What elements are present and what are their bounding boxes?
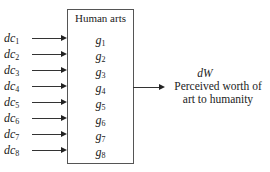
- box-item-g7: g7: [68, 130, 133, 146]
- box-item-g8: g8: [68, 146, 133, 162]
- input-arrow-line: [32, 118, 63, 119]
- input-label: dc4: [4, 80, 19, 96]
- box-item-g6: g6: [68, 114, 133, 130]
- box-item-g5: g5: [68, 98, 133, 114]
- output-label: dW Perceived worth of art to humanity: [140, 67, 270, 106]
- input-label: dc1: [4, 32, 19, 48]
- input-label: dc8: [4, 144, 19, 160]
- output-description-line1: Perceived worth of: [140, 80, 270, 93]
- input-label: dc5: [4, 96, 19, 112]
- box-item-g1: g1: [68, 34, 133, 50]
- output-description-line2: art to humanity: [140, 93, 270, 106]
- input-arrow-line: [32, 102, 63, 103]
- input-arrow-line: [32, 134, 63, 135]
- input-arrow-line: [32, 70, 63, 71]
- human-arts-box: Human arts g1 g2 g3 g4 g5 g6 g7 g8: [67, 9, 134, 164]
- input-label: dc6: [4, 112, 19, 128]
- output-variable: dW: [140, 67, 270, 80]
- input-arrow-line: [32, 54, 63, 55]
- input-label: dc2: [4, 48, 19, 64]
- input-arrow-line: [32, 86, 63, 87]
- box-item-g4: g4: [68, 82, 133, 98]
- box-item-g3: g3: [68, 66, 133, 82]
- input-arrow-line: [32, 38, 63, 39]
- box-title: Human arts: [68, 12, 133, 24]
- input-label: dc7: [4, 128, 19, 144]
- box-item-g2: g2: [68, 50, 133, 66]
- input-label: dc3: [4, 64, 19, 80]
- input-arrow-line: [32, 150, 63, 151]
